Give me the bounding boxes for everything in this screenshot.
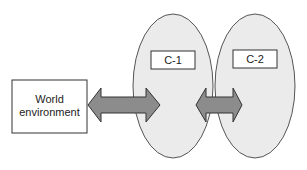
cluster-c2-ellipse: [215, 14, 295, 158]
world-environment-box: World environment: [12, 80, 87, 133]
world-label-line2: environment: [19, 106, 80, 118]
arrow-world-c1: [88, 88, 160, 122]
c1-label-box: C-1: [151, 51, 195, 69]
c1-label: C-1: [164, 54, 182, 66]
c2-label: C-2: [246, 53, 264, 65]
world-label-line1: World: [35, 93, 64, 105]
diagram-canvas: C-1 C-2 World environment: [0, 0, 307, 170]
cluster-c1-ellipse: [133, 14, 213, 158]
c2-label-box: C-2: [233, 50, 277, 68]
